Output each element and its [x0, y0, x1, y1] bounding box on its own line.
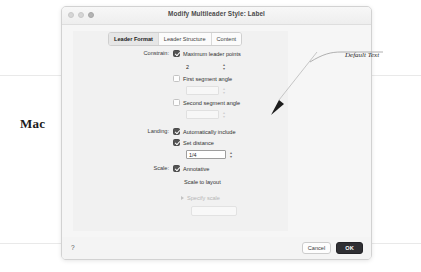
first-segment-angle-row[interactable]: First segment angle [173, 75, 232, 82]
scale-to-layout-row[interactable]: Scale to layout [184, 179, 221, 185]
max-leader-points-checkbox[interactable] [173, 50, 180, 57]
specify-scale-label: Specify scale [187, 195, 220, 201]
specify-scale-row: Specify scale [181, 195, 220, 201]
max-leader-points-value[interactable]: 2 [186, 62, 219, 71]
content-panel: Leader Format Leader Structure Content C… [62, 25, 371, 237]
second-segment-angle-spinner: ▴▾ [221, 110, 226, 119]
automatically-include-checkbox[interactable] [173, 128, 180, 135]
scale-label-wrap: Scale: [99, 165, 169, 171]
dialog-footer: ? Cancel OK [62, 237, 371, 260]
second-segment-angle-row[interactable]: Second segment angle [173, 99, 240, 106]
second-segment-angle-stepper: ▴▾ [186, 110, 226, 119]
modify-multileader-style-dialog: Modify Multileader Style: Label Leader F… [61, 6, 372, 260]
set-distance-stepper[interactable]: 1/4 ▴▾ [186, 150, 233, 159]
platform-annotation-mac: Mac [20, 116, 45, 132]
set-distance-label: Set distance [183, 140, 214, 146]
first-segment-angle-spinner: ▴▾ [221, 86, 226, 95]
second-segment-angle-label: Second segment angle [183, 100, 240, 106]
scale-label: Scale: [153, 165, 169, 171]
dialog-title: Modify Multileader Style: Label [62, 10, 371, 17]
constraints-label: Constrain: [144, 50, 170, 56]
second-segment-angle-value [186, 110, 219, 119]
help-button[interactable]: ? [71, 244, 75, 251]
set-distance-spinner[interactable]: ▴▾ [228, 150, 233, 159]
set-distance-checkbox[interactable] [173, 139, 180, 146]
max-leader-points-row[interactable]: Maximum leader points [173, 50, 241, 57]
second-segment-angle-checkbox[interactable] [173, 99, 180, 106]
automatically-include-row[interactable]: Automatically include [173, 128, 236, 135]
automatically-include-label: Automatically include [183, 129, 236, 135]
tab-leader-structure[interactable]: Leader Structure [159, 33, 212, 45]
max-leader-points-stepper[interactable]: 2 ▴▾ [186, 62, 226, 71]
specify-scale-dropdown [191, 206, 237, 216]
dialog-body: Leader Format Leader Structure Content C… [62, 25, 371, 260]
specify-scale-dropdown-wrap [191, 206, 237, 216]
cancel-button[interactable]: Cancel [302, 242, 331, 254]
disclosure-triangle-icon [181, 196, 184, 200]
annotation-text: Default Text [345, 51, 379, 59]
landing-label-wrap: Landing: [99, 128, 169, 134]
set-distance-row[interactable]: Set distance [173, 139, 214, 146]
annotative-label: Annotative [183, 166, 209, 172]
dialog-titlebar[interactable]: Modify Multileader Style: Label [62, 7, 371, 25]
max-leader-points-spinner[interactable]: ▴▾ [221, 62, 226, 71]
landing-label: Landing: [148, 128, 169, 134]
tab-leader-format[interactable]: Leader Format [109, 33, 159, 45]
ok-button[interactable]: OK [336, 242, 363, 254]
annotative-row[interactable]: Annotative [173, 165, 209, 172]
annotative-checkbox[interactable] [173, 165, 180, 172]
first-segment-angle-label: First segment angle [183, 76, 232, 82]
first-segment-angle-value [186, 86, 219, 95]
max-leader-points-label: Maximum leader points [183, 51, 241, 57]
set-distance-value[interactable]: 1/4 [186, 150, 226, 159]
constraints-label-wrap: Constrain: [99, 50, 169, 56]
scale-to-layout-label: Scale to layout [184, 179, 221, 185]
tab-content[interactable]: Content [212, 33, 242, 45]
tab-bar: Leader Format Leader Structure Content [108, 32, 242, 46]
first-segment-angle-stepper: ▴▾ [186, 86, 226, 95]
first-segment-angle-checkbox[interactable] [173, 75, 180, 82]
